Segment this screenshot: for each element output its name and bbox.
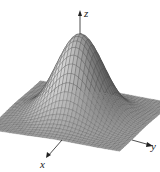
- x-axis-label: x: [39, 158, 45, 170]
- gaussian-surface-mesh: [0, 34, 160, 151]
- x-axis: x: [39, 140, 62, 170]
- z-axis-arrow-icon: [78, 10, 82, 16]
- y-axis: y: [132, 140, 156, 152]
- z-axis-label: z: [83, 7, 89, 19]
- y-axis-label: y: [150, 140, 156, 152]
- surface-plot: z x y: [0, 0, 160, 172]
- z-axis: z: [78, 7, 89, 34]
